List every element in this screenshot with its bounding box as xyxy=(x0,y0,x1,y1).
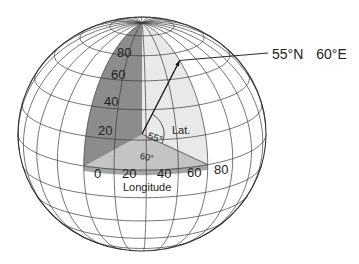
lat-tick-80: 80 xyxy=(117,45,131,60)
lat-tick-60: 60 xyxy=(111,67,125,82)
point-longitude: 60°E xyxy=(316,46,347,62)
lat-plane-label: Lat. xyxy=(172,124,190,136)
parallel-line xyxy=(37,195,248,221)
point-coordinate-label: 55°N60°E xyxy=(272,46,347,62)
lat-tick-20: 20 xyxy=(98,123,112,138)
lat-tick-40: 40 xyxy=(104,94,118,109)
label-leader-line xyxy=(180,53,268,60)
longitude-axis-label: Longitude xyxy=(123,181,171,193)
lon-tick-60: 60 xyxy=(187,165,201,180)
lon-tick-80: 80 xyxy=(214,162,228,177)
globe-diagram: 80 60 40 20 0 20 40 60 80 Longitude Lat.… xyxy=(0,0,359,264)
lon-tick-0: 0 xyxy=(94,166,101,181)
lon-tick-40: 40 xyxy=(157,166,171,181)
point-latitude: 55°N xyxy=(272,46,303,62)
lon-tick-20: 20 xyxy=(122,166,136,181)
